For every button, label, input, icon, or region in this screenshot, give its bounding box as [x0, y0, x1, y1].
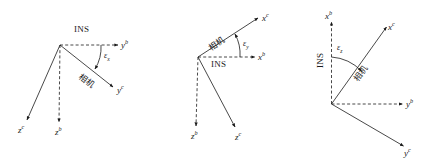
panel-x-angle-label: εx [104, 52, 110, 62]
panel-z-angle-subscript: z [340, 48, 342, 54]
panel-z-angle-label: εz [337, 44, 342, 54]
panel-x-angle-subscript: x [107, 56, 109, 62]
axis-zb-line [59, 45, 60, 122]
axis-label-zc-frame: c [22, 123, 25, 130]
misalignment-angle-figure: INS 相机 εx yb zb yc zc INS 相 [0, 0, 434, 166]
panel-y-angle-subscript: y [246, 44, 248, 50]
axis-label-xc: xc [262, 12, 269, 23]
axis-label-zb: zb [191, 130, 198, 141]
axis-label-xb: xb [325, 10, 332, 21]
axis-label-yc: yc [117, 84, 124, 95]
axis-label-xb-frame: b [262, 50, 265, 57]
axis-label-zb-frame: b [195, 129, 198, 136]
panel-z-ins-label: INS [316, 53, 325, 68]
axis-xc-line [198, 18, 258, 57]
axis-zb-line [196, 57, 198, 126]
axis-label-zb: zb [55, 126, 62, 137]
axis-label-xb-frame: b [329, 9, 332, 16]
panel-x-ins-label: INS [74, 25, 89, 34]
axis-label-xc-frame: c [266, 11, 269, 18]
axis-label-yb-frame: b [125, 38, 128, 45]
panel-y-angle-label: εy [243, 40, 249, 50]
angle-arc-epsilon-y [235, 34, 240, 57]
panel-y-ins-label: INS [211, 60, 226, 69]
axis-label-xc: xc [388, 21, 395, 32]
axis-label-zc: zc [18, 124, 24, 135]
axis-zc-line [27, 45, 60, 120]
panel-y-vectors [145, 0, 290, 166]
angle-arc-epsilon-x [95, 45, 101, 69]
axis-label-yb: yb [406, 98, 413, 109]
axis-label-yb: yb [121, 39, 128, 50]
axis-label-yc: yc [404, 147, 411, 158]
axis-label-xb: xb [258, 51, 265, 62]
axis-label-yb-frame: b [410, 97, 413, 104]
axis-label-zc-frame: c [239, 130, 242, 137]
axis-label-zb-frame: b [59, 125, 62, 132]
epsilon-z-misalignment-diagram: INS 相机 εz xb yb xc yc [290, 0, 434, 166]
axis-label-zc: zc [235, 131, 241, 142]
axis-yc-line [332, 104, 404, 146]
axis-label-yc-frame: c [408, 146, 411, 153]
panel-z-vectors [290, 0, 434, 166]
epsilon-y-misalignment-diagram: INS 相机 εy xb zb xc zc [145, 0, 290, 166]
epsilon-x-misalignment-diagram: INS 相机 εx yb zb yc zc [0, 0, 145, 166]
axis-label-yc-frame: c [121, 83, 124, 90]
axis-label-xc-frame: c [392, 20, 395, 27]
